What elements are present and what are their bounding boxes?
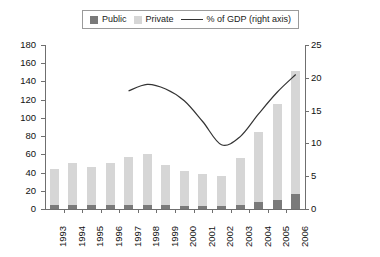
legend-label-public: Public	[102, 15, 127, 24]
y-axis-right-tick	[305, 78, 309, 79]
y-axis-right-tick-label: 5	[311, 171, 341, 181]
legend-label-private: Private	[146, 15, 174, 24]
x-axis-label-1994: 1994	[77, 226, 87, 247]
x-axis-tick	[194, 209, 195, 213]
x-axis-label-1999: 1999	[170, 226, 180, 247]
x-axis-tick	[249, 209, 250, 213]
y-axis-left-tick-label: 180	[6, 40, 36, 50]
chart-legend: Public Private % of GDP (right axis)	[82, 10, 299, 29]
x-axis-tick	[138, 209, 139, 213]
y-axis-left-tick-label: 60	[6, 149, 36, 159]
legend-item-private: Private	[134, 15, 174, 24]
x-axis-tick	[156, 209, 157, 213]
y-axis-left-tick-label: 40	[6, 168, 36, 178]
x-axis-label-1997: 1997	[133, 226, 143, 247]
x-axis-tick	[175, 209, 176, 213]
y-axis-left-tick-label: 0	[6, 204, 36, 214]
x-axis-label-1996: 1996	[114, 226, 124, 247]
x-axis-tick	[268, 209, 269, 213]
y-axis-left-tick-label: 100	[6, 113, 36, 123]
x-axis-label-2002: 2002	[225, 226, 235, 247]
x-axis-tick	[64, 209, 65, 213]
y-axis-right-tick	[305, 45, 309, 46]
x-axis-label-2004: 2004	[263, 226, 273, 247]
x-axis-label-2001: 2001	[207, 226, 217, 247]
x-axis-tick	[82, 209, 83, 213]
y-axis-right-tick	[305, 111, 309, 112]
x-axis-tick	[286, 209, 287, 213]
pct-gdp-line-path	[129, 75, 296, 146]
y-axis-right-tick-label: 10	[311, 138, 341, 148]
y-axis-right-tick-label: 15	[311, 106, 341, 116]
x-axis-tick	[231, 209, 232, 213]
pct-gdp-line-series	[45, 45, 305, 209]
x-axis-label-2005: 2005	[281, 226, 291, 247]
x-axis-label-1995: 1995	[95, 226, 105, 247]
y-axis-left-tick-label: 160	[6, 58, 36, 68]
x-axis-label-2003: 2003	[244, 226, 254, 247]
y-axis-right-tick-label: 0	[311, 204, 341, 214]
y-axis-right-tick-label: 25	[311, 40, 341, 50]
legend-item-public: Public	[90, 15, 127, 24]
x-axis-tick	[119, 209, 120, 213]
y-axis-left-tick-label: 20	[6, 186, 36, 196]
y-axis-left-tick	[41, 209, 45, 210]
y-axis-right-tick	[305, 209, 309, 210]
y-axis-left-tick-label: 140	[6, 76, 36, 86]
chart-container: Public Private % of GDP (right axis) 020…	[0, 0, 380, 257]
line-swatch-icon	[181, 19, 203, 20]
x-axis-tick	[212, 209, 213, 213]
y-axis-left-tick-label: 80	[6, 131, 36, 141]
x-axis-tick	[101, 209, 102, 213]
square-swatch-icon	[134, 16, 142, 24]
x-axis-label-1993: 1993	[58, 226, 68, 247]
y-axis-right-tick	[305, 176, 309, 177]
square-swatch-icon	[90, 16, 98, 24]
x-axis-label-2006: 2006	[300, 226, 310, 247]
y-axis-right-tick	[305, 143, 309, 144]
legend-item-pct-gdp: % of GDP (right axis)	[181, 15, 291, 24]
y-axis-right	[305, 45, 306, 209]
y-axis-left-tick-label: 120	[6, 95, 36, 105]
legend-label-pct-gdp: % of GDP (right axis)	[207, 15, 291, 24]
y-axis-right-tick-label: 20	[311, 73, 341, 83]
x-axis-label-1998: 1998	[151, 226, 161, 247]
x-axis-label-2000: 2000	[188, 226, 198, 247]
